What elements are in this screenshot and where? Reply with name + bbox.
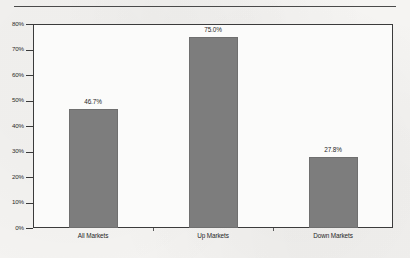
y-axis-tick bbox=[26, 50, 33, 51]
x-axis-tick bbox=[153, 228, 154, 231]
y-axis-tick bbox=[26, 228, 33, 229]
x-axis-category-label: Up Markets bbox=[173, 233, 253, 239]
top-horizontal-rule bbox=[14, 6, 396, 7]
x-axis-tick bbox=[273, 228, 274, 231]
y-axis-tick-label: 20% bbox=[0, 174, 24, 180]
y-axis-tick bbox=[26, 101, 33, 102]
y-axis-tick-label: 70% bbox=[0, 46, 24, 52]
x-axis-category-label: All Markets bbox=[53, 233, 133, 239]
x-axis-category-label: Down Markets bbox=[293, 233, 373, 239]
y-axis-tick-label: 60% bbox=[0, 72, 24, 78]
y-axis-tick-label: 30% bbox=[0, 148, 24, 154]
bar-up-markets[interactable] bbox=[189, 37, 238, 228]
y-axis-tick-label: 10% bbox=[0, 199, 24, 205]
y-axis-tick-label: 80% bbox=[0, 21, 24, 27]
bar-value-label: 27.8% bbox=[303, 147, 363, 153]
y-axis-tick bbox=[26, 126, 33, 127]
bar-down-markets[interactable] bbox=[309, 157, 358, 228]
y-axis-tick-label: 40% bbox=[0, 123, 24, 129]
bar-value-label: 46.7% bbox=[63, 99, 123, 105]
y-axis-tick-label: 50% bbox=[0, 97, 24, 103]
y-axis-tick-label: 0% bbox=[0, 225, 24, 231]
chart-figure: 0%10%20%30%40%50%60%70%80% 46.7%All Mark… bbox=[0, 0, 410, 258]
y-axis-tick bbox=[26, 75, 33, 76]
y-axis-tick bbox=[26, 203, 33, 204]
y-axis-tick bbox=[26, 152, 33, 153]
bar-all-markets[interactable] bbox=[69, 109, 118, 228]
y-axis-tick bbox=[26, 177, 33, 178]
bar-value-label: 75.0% bbox=[183, 27, 243, 33]
y-axis-tick bbox=[26, 24, 33, 25]
